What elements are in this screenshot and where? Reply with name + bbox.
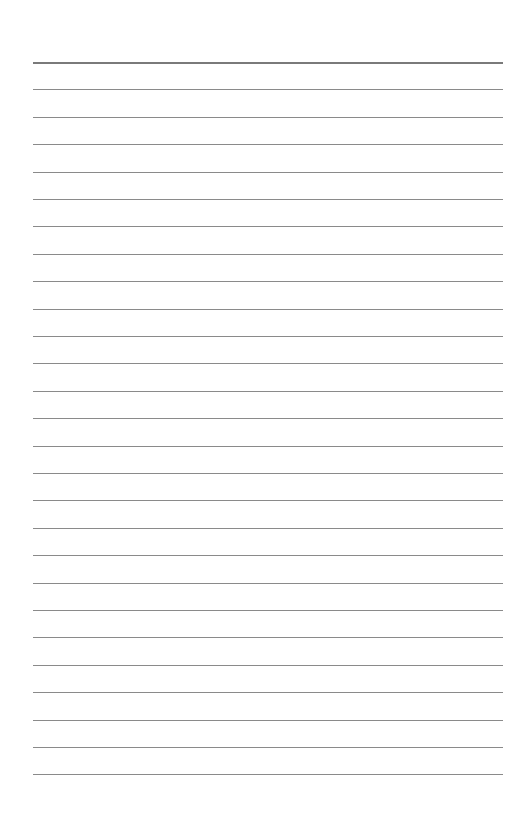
rule-line: [33, 555, 503, 556]
lined-paper-page: [0, 0, 509, 816]
rule-line: [33, 583, 503, 584]
rule-line: [33, 117, 503, 118]
rule-line: [33, 172, 503, 173]
rule-line: [33, 144, 503, 145]
rule-line: [33, 309, 503, 310]
rule-line: [33, 665, 503, 666]
rule-line: [33, 747, 503, 748]
rule-line: [33, 473, 503, 474]
rule-line: [33, 418, 503, 419]
rule-line: [33, 199, 503, 200]
rule-line: [33, 226, 503, 227]
rule-line: [33, 446, 503, 447]
rule-line: [33, 500, 503, 501]
rule-line: [33, 89, 503, 90]
rule-line: [33, 720, 503, 721]
rule-line: [33, 528, 503, 529]
rule-line: [33, 692, 503, 693]
header-rule-line: [33, 62, 503, 64]
rule-line: [33, 391, 503, 392]
rule-line: [33, 336, 503, 337]
rule-line: [33, 610, 503, 611]
rule-line: [33, 254, 503, 255]
rule-line: [33, 774, 503, 775]
rule-line: [33, 281, 503, 282]
rule-line: [33, 363, 503, 364]
rule-line: [33, 637, 503, 638]
